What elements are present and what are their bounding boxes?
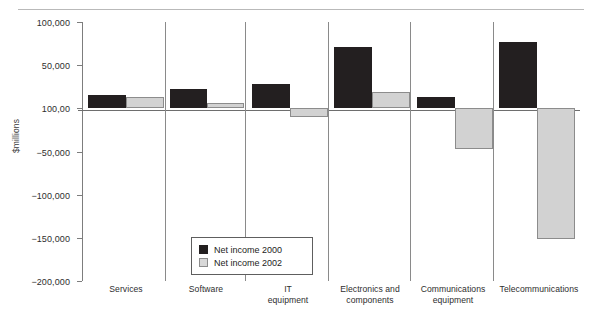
bar-services-2000 [88,95,126,108]
bar-software-2000 [170,89,207,109]
x-axis-label-telecommunications-line1: Telecommunications [494,284,584,295]
x-axis-label-services: Services [85,284,167,295]
y-tick-50000: 50,000 [77,65,82,66]
x-axis-label-it-equipment-line2: equipment [248,295,328,306]
legend-label-2000: Net income 2000 [214,245,282,255]
zero-baseline [78,110,580,111]
bar-it-equipment-2000 [252,84,290,108]
x-axis-label-software-line1: Software [166,284,246,295]
x-axis-label-communications-equipment: Communications equipment [412,284,494,306]
legend-label-2002: Net income 2002 [214,258,282,268]
y-tick-label-minus-150000: −150,000 [31,234,70,244]
x-axis-label-telecommunications: Telecommunications [494,284,584,295]
x-axis-label-communications-line2: equipment [412,295,494,306]
x-axis-label-electronics-and-components: Electronics and components [330,284,410,306]
x-axis-label-electronics-line2: components [330,295,410,306]
x-axis-label-software: Software [166,284,246,295]
bar-chart-figure: $millions 100,000 50,000 100,00 −50,000 … [0,0,592,327]
category-separator-3 [328,22,329,281]
y-axis-line [82,22,83,281]
bar-software-2002 [207,103,244,108]
x-axis-label-it-equipment-line1: IT [248,284,328,295]
y-tick-label-0: 100,00 [42,104,70,114]
y-tick-label-minus-200000: −200,000 [31,277,70,287]
category-separator-5 [493,22,494,281]
y-tick-label-100000: 100,000 [37,18,70,28]
legend-swatch-icon-2000 [199,245,208,254]
y-tick-minus-50000: −50,000 [77,152,82,153]
chart-legend: Net income 2000 Net income 2002 [191,237,313,275]
x-axis-label-it-equipment: IT equipment [248,284,328,306]
y-tick-label-minus-50000: −50,000 [37,148,70,158]
x-axis-label-services-line1: Services [85,284,167,295]
bar-telecommunications-2002 [537,108,575,239]
x-axis-label-communications-line1: Communications [412,284,494,295]
legend-swatch-icon-2002 [199,258,208,267]
bar-communications-equipment-2000 [417,97,455,108]
bar-electronics-and-components-2002 [372,92,410,108]
plot-area: 100,000 50,000 100,00 −50,000 −100,000 −… [82,22,580,281]
bar-it-equipment-2002 [290,108,328,117]
top-divider-rule [18,9,584,10]
y-tick-label-50000: 50,000 [42,61,70,71]
y-tick-minus-100000: −100,000 [77,195,82,196]
category-separator-4 [410,22,411,281]
x-axis-label-electronics-line1: Electronics and [330,284,410,295]
bar-communications-equipment-2002 [455,108,493,149]
bar-telecommunications-2000 [499,42,537,109]
y-tick-100000: 100,000 [77,22,82,23]
y-tick-minus-150000: −150,000 [77,238,82,239]
category-separator-1 [165,22,166,281]
y-tick-minus-200000: −200,000 [77,281,82,282]
y-tick-0: 100,00 [77,108,82,109]
bar-services-2002 [126,97,164,108]
y-axis-title: $millions [11,101,21,171]
bar-electronics-and-components-2000 [334,47,372,108]
legend-item-net-income-2000: Net income 2000 [199,243,305,256]
legend-item-net-income-2002: Net income 2002 [199,256,305,269]
y-tick-label-minus-100000: −100,000 [31,191,70,201]
